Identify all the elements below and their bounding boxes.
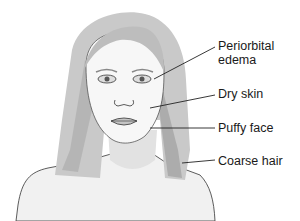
label-puffy-face: Puffy face <box>218 121 273 135</box>
label-dry-skin: Dry skin <box>218 87 263 101</box>
label-periorbital-edema: Periorbital edema <box>218 39 274 67</box>
diagram: Periorbital edema Dry skin Puffy face Co… <box>0 0 300 221</box>
face-illustration <box>0 0 300 221</box>
label-coarse-hair: Coarse hair <box>218 154 283 168</box>
label-line-2: edema <box>218 53 256 67</box>
label-line-1: Periorbital <box>218 39 274 53</box>
